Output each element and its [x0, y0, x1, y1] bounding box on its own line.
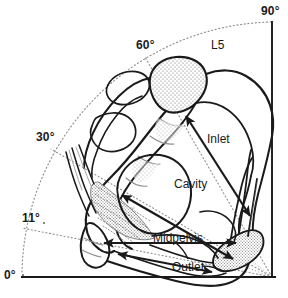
- vertebra-label-l5: L5: [211, 39, 224, 51]
- angle-label-11deg: 11°: [22, 212, 40, 224]
- plane-label-midpelvis: Midpelvis: [153, 232, 203, 244]
- pelvis-angle-diagram: 0° 11° 30° 60° 90° Inlet Cavity Midpelvi…: [0, 0, 288, 298]
- inlet-arrow: [186, 116, 250, 216]
- coccyx-segment-b: [82, 250, 101, 257]
- tick-0deg: [22, 274, 24, 276]
- angle-label-60deg: 60°: [136, 39, 155, 51]
- pubic-ramus-shading: [249, 151, 264, 234]
- angle-label-0deg: 0°: [4, 269, 16, 281]
- l5-vertebra-body: [150, 57, 207, 113]
- plane-label-outlet: Outlet: [172, 261, 204, 273]
- pelvis-drawing: [66, 57, 273, 286]
- tick-11deg: [43, 222, 45, 224]
- plane-label-cavity: Cavity: [174, 178, 207, 190]
- angle-label-30deg: 30°: [36, 131, 55, 143]
- plane-label-inlet: Inlet: [207, 133, 230, 145]
- angle-label-90deg: 90°: [261, 5, 280, 17]
